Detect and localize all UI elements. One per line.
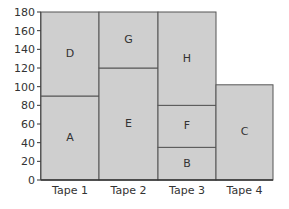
y-tick-label: 100 <box>14 81 35 94</box>
segment-label: G <box>124 33 133 46</box>
stacked-bar-chart: 020406080100120140160180 ADEGBFHC Tape 1… <box>0 0 289 209</box>
y-axis: 020406080100120140160180 <box>14 6 41 187</box>
x-axis: Tape 1Tape 2Tape 3Tape 4 <box>41 180 273 197</box>
segment-label: B <box>183 157 191 170</box>
segment-h: H <box>158 12 216 105</box>
y-tick-label: 40 <box>21 137 35 150</box>
y-tick-label: 140 <box>14 43 35 56</box>
segment-d: D <box>41 12 99 96</box>
y-tick-label: 80 <box>21 99 35 112</box>
y-tick-label: 60 <box>21 118 35 131</box>
x-tick-label: Tape 3 <box>168 184 205 197</box>
x-tick-label: Tape 2 <box>110 184 147 197</box>
segment-label: E <box>125 117 132 130</box>
segment-a: A <box>41 96 99 180</box>
y-tick-label: 0 <box>28 174 35 187</box>
segment-f: F <box>158 105 216 147</box>
bar-segments: ADEGBFHC <box>41 12 273 180</box>
segment-e: E <box>99 68 158 180</box>
y-tick-label: 180 <box>14 6 35 19</box>
segment-g: G <box>99 12 158 68</box>
y-tick-label: 20 <box>21 155 35 168</box>
segment-c: C <box>216 85 273 180</box>
segment-b: B <box>158 147 216 180</box>
segment-label: H <box>183 52 191 65</box>
y-tick-label: 160 <box>14 25 35 38</box>
segment-label: F <box>184 119 190 132</box>
segment-label: D <box>66 47 74 60</box>
x-tick-label: Tape 1 <box>51 184 88 197</box>
y-tick-label: 120 <box>14 62 35 75</box>
segment-label: A <box>66 131 74 144</box>
x-tick-label: Tape 4 <box>226 184 263 197</box>
segment-label: C <box>241 125 249 138</box>
